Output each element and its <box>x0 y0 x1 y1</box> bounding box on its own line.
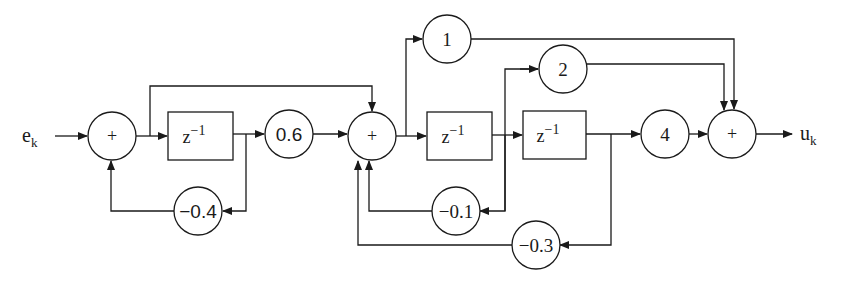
summing-junction-2: + <box>348 112 396 160</box>
delay-block-1: z−1 <box>168 112 233 160</box>
gain-label: 1 <box>442 29 452 50</box>
gain-minus-0.3: −0.3 <box>512 221 560 269</box>
sum-symbol: + <box>107 126 117 146</box>
delay-block-3: z−1 <box>523 111 586 159</box>
gain2-to-sum3-arrow <box>587 64 724 110</box>
gainm01-to-sum2-arrow <box>369 161 432 211</box>
gain-0.6: 0.6 <box>265 110 313 158</box>
sum-symbol: + <box>727 124 737 144</box>
gain-minus-0.4: −0.4 <box>174 187 222 235</box>
gain-label: 2 <box>558 59 568 80</box>
gain-label: −0.1 <box>439 201 473 222</box>
gain-2: 2 <box>539 45 587 93</box>
gain-1: 1 <box>423 15 471 63</box>
block-diagram: ek uk + + + z−1 z−1 z−1 0.6 −0.4 1 2 <box>0 0 846 284</box>
sum-symbol: + <box>367 126 377 146</box>
input-label: ek <box>22 124 38 150</box>
summing-junction-3: + <box>708 110 756 158</box>
to-gain1-arrow <box>406 39 422 136</box>
gain-label: 0.6 <box>276 124 302 145</box>
gainm04-to-sum1-arrow <box>111 161 174 211</box>
delay-block-2: z−1 <box>427 112 492 160</box>
gain-4: 4 <box>641 110 689 158</box>
gain-label: −0.4 <box>179 201 217 222</box>
gain-minus-0.1: −0.1 <box>432 187 480 235</box>
gain-label: 4 <box>660 124 670 145</box>
gain1-to-sum3-arrow <box>471 39 734 109</box>
gain-label: −0.3 <box>519 235 553 256</box>
summing-junction-1: + <box>88 112 136 160</box>
output-label: uk <box>800 122 817 148</box>
